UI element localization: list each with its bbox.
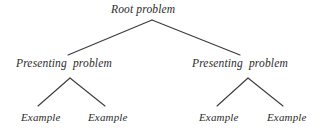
connector-right-mid-to-leaf-4 [248,78,283,106]
node-example-2: Example [88,112,128,123]
node-root-problem: Root problem [111,4,175,16]
node-example-1: Example [21,112,61,123]
problem-tree-diagram: Root problem Presenting problem Presenti… [0,0,324,134]
connector-root-to-right-mid [152,20,240,55]
node-presenting-problem-right: Presenting problem [192,58,288,70]
node-example-4: Example [267,112,307,123]
connector-left-mid-to-leaf-2 [70,78,105,106]
connector-right-mid-to-leaf-3 [217,78,248,106]
node-presenting-problem-left: Presenting problem [16,58,112,70]
connector-root-to-left-mid [68,20,152,55]
connector-left-mid-to-leaf-1 [38,78,70,106]
node-example-3: Example [199,112,239,123]
